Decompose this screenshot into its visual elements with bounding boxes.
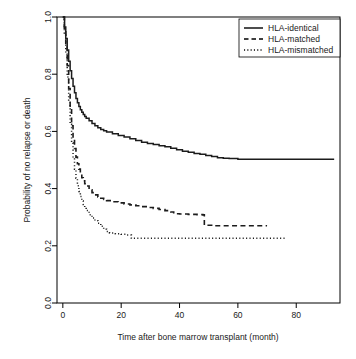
y-tick-label: 0.2 — [43, 240, 53, 252]
survival-plot-figure: 0204060800.00.20.40.60.81.0 HLA-identica… — [0, 0, 356, 359]
legend-label-hla-mismatched: HLA-mismatched — [268, 45, 333, 55]
legend-label-hla-matched: HLA-matched — [268, 34, 320, 44]
x-tick-label: 60 — [233, 310, 243, 320]
y-tick-label: 1.0 — [43, 11, 53, 23]
tick-marks — [52, 17, 296, 308]
y-tick-label: 0.8 — [43, 68, 53, 80]
x-tick-label: 20 — [116, 310, 126, 320]
curve-hla-matched — [63, 17, 267, 226]
x-tick-label: 80 — [292, 310, 302, 320]
y-tick-label: 0.0 — [43, 297, 53, 309]
kaplan-meier-chart: 0204060800.00.20.40.60.81.0 HLA-identica… — [0, 0, 356, 359]
x-axis-title: Time after bone marrow transplant (month… — [117, 332, 278, 342]
chart-legend: HLA-identicalHLA-matchedHLA-mismatched — [239, 19, 340, 57]
y-tick-label: 0.6 — [43, 125, 53, 137]
y-axis-title: Probability of no relapse or death — [22, 97, 32, 222]
legend-label-hla-identical: HLA-identical — [268, 23, 319, 33]
plot-frame — [57, 17, 340, 303]
x-tick-label: 40 — [175, 310, 185, 320]
y-tick-label: 0.4 — [43, 182, 53, 194]
x-tick-label: 0 — [60, 310, 65, 320]
